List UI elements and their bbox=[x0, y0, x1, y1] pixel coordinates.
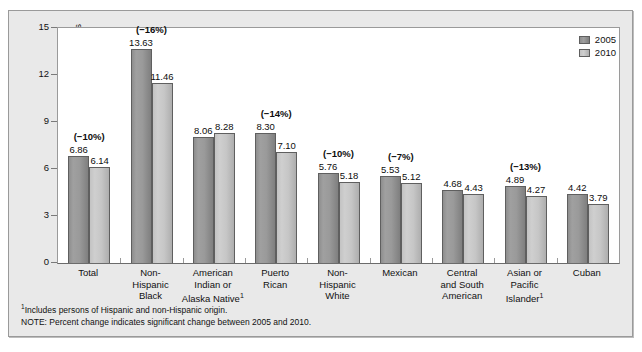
category-label-0: Total bbox=[57, 267, 119, 279]
bar-value-label: 8.28 bbox=[209, 121, 239, 132]
category-label-line: Central bbox=[431, 267, 493, 279]
plot-area: 6.866.14(−10%)13.6311.46(−16%)8.068.288.… bbox=[57, 27, 620, 264]
category-label-6: Centraland SouthAmerican bbox=[431, 267, 493, 302]
category-label-line: Hispanic bbox=[306, 279, 368, 291]
bar-2010-6 bbox=[463, 194, 484, 263]
bar-2005-2 bbox=[193, 137, 214, 263]
legend-item-2010[interactable]: 2010 bbox=[579, 46, 616, 59]
bar-2005-8 bbox=[567, 194, 588, 263]
percent-change-label: (−7%) bbox=[376, 151, 426, 162]
bar-2010-4 bbox=[339, 182, 360, 263]
category-label-2: AmericanIndian orAlaska Native1 bbox=[182, 267, 244, 305]
chart-figure: Rate per 1000 Live Births 03691215 6.866… bbox=[8, 10, 633, 337]
y-axis-tick-label: 3 bbox=[23, 209, 49, 220]
percent-change-label: (−16%) bbox=[127, 24, 177, 35]
category-separator bbox=[120, 258, 121, 263]
y-axis-tick-label: 12 bbox=[23, 68, 49, 79]
bar-value-label: 5.18 bbox=[334, 170, 364, 181]
bar-2010-8 bbox=[588, 204, 609, 263]
category-label-4: Non-HispanicWhite bbox=[306, 267, 368, 302]
bar-2010-0 bbox=[89, 167, 110, 263]
category-label-line: Rican bbox=[244, 279, 306, 291]
category-label-line: Indian or bbox=[182, 279, 244, 291]
bar-2005-4 bbox=[318, 173, 339, 263]
category-label-8: Cuban bbox=[556, 267, 618, 279]
category-separator bbox=[245, 258, 246, 263]
percent-change-label: (−13%) bbox=[501, 161, 551, 172]
bar-value-label: 3.79 bbox=[583, 192, 613, 203]
bar-2005-0 bbox=[68, 156, 89, 263]
bar-2005-5 bbox=[380, 176, 401, 263]
y-axis-tick-label: 6 bbox=[23, 162, 49, 173]
bar-2005-6 bbox=[442, 190, 463, 263]
category-label-line: Mexican bbox=[369, 267, 431, 279]
bar-value-label: 13.63 bbox=[126, 37, 156, 48]
category-separator bbox=[557, 258, 558, 263]
y-axis-tick-label: 9 bbox=[23, 115, 49, 126]
category-label-line: Islander1 bbox=[493, 290, 555, 305]
footnote-ref: 1 bbox=[240, 292, 244, 299]
percent-change-label: (−10%) bbox=[314, 148, 364, 159]
bars-layer: 6.866.14(−10%)13.6311.46(−16%)8.068.288.… bbox=[58, 28, 619, 263]
category-label-line: Puerto bbox=[244, 267, 306, 279]
category-label-line: Asian or bbox=[493, 267, 555, 279]
category-separator bbox=[307, 258, 308, 263]
bar-2010-5 bbox=[401, 183, 422, 263]
category-label-line: Pacific bbox=[493, 279, 555, 291]
category-separator bbox=[432, 258, 433, 263]
category-label-1: Non-HispanicBlack bbox=[119, 267, 181, 302]
category-separator bbox=[494, 258, 495, 263]
category-label-line: Total bbox=[57, 267, 119, 279]
category-label-line: White bbox=[306, 290, 368, 302]
bar-2010-1 bbox=[152, 83, 173, 263]
percent-change-label: (−10%) bbox=[64, 131, 114, 142]
footnote-ref: 1 bbox=[539, 292, 543, 299]
bar-value-label: 4.27 bbox=[521, 184, 551, 195]
category-label-5: Mexican bbox=[369, 267, 431, 279]
bar-2005-3 bbox=[255, 133, 276, 263]
category-label-line: and South bbox=[431, 279, 493, 291]
bar-2005-7 bbox=[505, 186, 526, 263]
chart-legend: 20052010 bbox=[579, 33, 616, 59]
category-label-7: Asian orPacificIslander1 bbox=[493, 267, 555, 305]
category-label-3: PuertoRican bbox=[244, 267, 306, 290]
bar-2010-7 bbox=[526, 196, 547, 263]
legend-label: 2010 bbox=[595, 47, 616, 58]
bar-value-label: 11.46 bbox=[147, 71, 177, 82]
legend-swatch-icon bbox=[579, 49, 590, 57]
category-label-line: Hispanic bbox=[119, 279, 181, 291]
legend-label: 2005 bbox=[595, 34, 616, 45]
bar-value-label: 5.12 bbox=[396, 171, 426, 182]
footnote-text-1: Includes persons of Hispanic and non-His… bbox=[25, 305, 228, 315]
legend-swatch-icon bbox=[579, 36, 590, 44]
category-label-line: Cuban bbox=[556, 267, 618, 279]
bar-2010-2 bbox=[214, 133, 235, 263]
category-separator bbox=[370, 258, 371, 263]
bar-value-label: 6.86 bbox=[64, 144, 94, 155]
y-axis-tick-label: 0 bbox=[23, 256, 49, 267]
category-label-line: Non- bbox=[306, 267, 368, 279]
y-axis-tick-label: 15 bbox=[23, 21, 49, 32]
bar-value-label: 8.30 bbox=[251, 121, 281, 132]
bar-2010-3 bbox=[276, 152, 297, 263]
category-label-line: American bbox=[431, 290, 493, 302]
bar-value-label: 6.14 bbox=[85, 155, 115, 166]
bar-value-label: 4.43 bbox=[459, 182, 489, 193]
category-label-line: American bbox=[182, 267, 244, 279]
chart-footnotes: 1Includes persons of Hispanic and non-Hi… bbox=[21, 301, 311, 328]
category-label-line: Non- bbox=[119, 267, 181, 279]
category-separator bbox=[183, 258, 184, 263]
category-label-line: Black bbox=[119, 290, 181, 302]
legend-item-2005[interactable]: 2005 bbox=[579, 33, 616, 46]
footnote-line-1: 1Includes persons of Hispanic and non-Hi… bbox=[21, 301, 311, 316]
bar-value-label: 7.10 bbox=[272, 140, 302, 151]
footnote-line-2: NOTE: Percent change indicates significa… bbox=[21, 317, 311, 329]
percent-change-label: (−14%) bbox=[251, 108, 301, 119]
